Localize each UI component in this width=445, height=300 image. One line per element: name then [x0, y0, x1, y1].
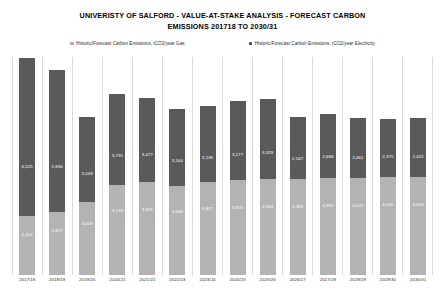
- bar-segment-gas[interactable]: 4,060: [380, 177, 396, 275]
- bar-segment-electricity[interactable]: 6,525: [19, 58, 35, 216]
- bar-segment-gas[interactable]: 4,025: [350, 178, 366, 275]
- bar-value-label-gas: 3,963: [290, 204, 306, 209]
- stacked-bar[interactable]: 3,3293,944: [260, 99, 276, 275]
- plot-area: 6,5252,4245,8362,6173,5093,0183,7353,719…: [12, 57, 433, 275]
- bar-slot: 3,3293,944: [253, 57, 283, 275]
- x-axis-tick-label: 2025/26: [253, 277, 283, 282]
- bar-segment-gas[interactable]: 2,617: [49, 212, 65, 275]
- stacked-bar[interactable]: 3,4773,821: [139, 98, 155, 275]
- bar-segment-electricity[interactable]: 3,139: [200, 106, 216, 182]
- bar-segment-electricity[interactable]: 3,277: [230, 101, 246, 180]
- bar-segment-gas[interactable]: 4,050: [410, 177, 426, 275]
- stacked-bar[interactable]: 2,4614,025: [350, 118, 366, 275]
- x-axis-tick-label: 2021/22: [132, 277, 162, 282]
- bar-slot: 6,5252,424: [12, 57, 42, 275]
- stacked-bar[interactable]: 5,8362,617: [49, 70, 65, 275]
- bar-value-label-gas: 3,018: [79, 221, 95, 226]
- chart-title-line-2: EMISSIONS 201718 TO 2030/31: [0, 22, 445, 33]
- x-axis-tick-label: 2029/30: [373, 277, 403, 282]
- bar-segment-electricity[interactable]: 2,375: [380, 119, 396, 177]
- bar-slot: 5,8362,617: [42, 57, 72, 275]
- bar-segment-electricity[interactable]: 2,422: [410, 118, 426, 177]
- bar-segment-electricity[interactable]: 3,329: [260, 99, 276, 180]
- bar-segment-electricity[interactable]: 2,668: [320, 114, 336, 179]
- bar-value-label-electricity: 2,668: [320, 154, 336, 159]
- bar-slot: 2,6683,992: [313, 57, 343, 275]
- bar-segment-electricity[interactable]: 3,509: [79, 117, 95, 202]
- bar-slot: 3,2773,905: [223, 57, 253, 275]
- bar-value-label-gas: 4,025: [350, 203, 366, 208]
- bar-value-label-electricity: 3,164: [169, 158, 185, 163]
- bar-value-label-electricity: 3,277: [230, 152, 246, 157]
- bar-segment-electricity[interactable]: 3,735: [109, 94, 125, 184]
- stacked-bar[interactable]: 3,2773,905: [230, 101, 246, 275]
- bar-value-label-gas: 2,617: [49, 228, 65, 233]
- legend-label-electricity: Historic/Forecast Carbon Emissions, tCO2…: [255, 41, 375, 46]
- x-axis-tick-label: 2028/29: [343, 277, 373, 282]
- legend-item-electricity[interactable]: Historic/Forecast Carbon Emissions, tCO2…: [249, 41, 375, 46]
- bar-segment-electricity[interactable]: 2,461: [350, 118, 366, 178]
- stacked-bar[interactable]: 3,7353,719: [109, 94, 125, 275]
- bar-segment-electricity[interactable]: 5,836: [49, 70, 65, 211]
- bar-segment-gas[interactable]: 3,992: [320, 178, 336, 275]
- chart-title-line-1: UNIVERISTY OF SALFORD - VALUE-AT-STAKE A…: [0, 11, 445, 22]
- legend-swatch-electricity-icon: [249, 42, 253, 46]
- chart-legend: Historic/Forecast Carbon Emissions, tCO2…: [0, 41, 445, 46]
- stacked-bar[interactable]: 2,6683,992: [320, 114, 336, 275]
- stacked-bar[interactable]: 2,5473,963: [290, 117, 306, 275]
- bar-value-label-electricity: 5,836: [49, 164, 65, 169]
- stacked-bar[interactable]: 3,1393,827: [200, 106, 216, 275]
- bar-group: 6,5252,4245,8362,6173,5093,0183,7353,719…: [12, 57, 433, 275]
- bar-value-label-electricity: 2,547: [290, 156, 306, 161]
- bar-slot: 3,1393,827: [192, 57, 222, 275]
- bar-value-label-electricity: 3,139: [200, 155, 216, 160]
- bar-segment-gas[interactable]: 3,018: [79, 202, 95, 275]
- bar-value-label-electricity: 3,735: [109, 153, 125, 158]
- stacked-bar[interactable]: 2,3754,060: [380, 119, 396, 275]
- x-axis-tick-label: 2017/18: [12, 277, 42, 282]
- bar-value-label-gas: 4,060: [380, 202, 396, 207]
- bar-segment-gas[interactable]: 3,719: [109, 185, 125, 275]
- legend-swatch-gas-icon: [70, 42, 74, 46]
- bar-segment-gas[interactable]: 3,686: [169, 186, 185, 275]
- x-axis-tick-label: 2018/19: [42, 277, 72, 282]
- bar-slot: 3,4773,821: [132, 57, 162, 275]
- bar-segment-gas[interactable]: 2,424: [19, 216, 35, 275]
- bar-value-label-electricity: 2,461: [350, 155, 366, 160]
- chart-title: UNIVERISTY OF SALFORD - VALUE-AT-STAKE A…: [0, 11, 445, 32]
- x-axis-tick-label: 2022/23: [162, 277, 192, 282]
- bar-value-label-gas: 3,905: [230, 205, 246, 210]
- bar-segment-gas[interactable]: 3,944: [260, 179, 276, 275]
- bar-segment-electricity[interactable]: 3,477: [139, 98, 155, 182]
- x-axis-tick-label: 2019/20: [72, 277, 102, 282]
- stacked-bar[interactable]: 3,1643,686: [169, 109, 185, 275]
- bar-value-label-gas: 3,821: [139, 207, 155, 212]
- bar-segment-gas[interactable]: 3,905: [230, 180, 246, 275]
- bar-value-label-gas: 3,719: [109, 208, 125, 213]
- bar-value-label-gas: 4,050: [410, 202, 426, 207]
- bar-value-label-gas: 3,944: [260, 204, 276, 209]
- bar-segment-gas[interactable]: 3,963: [290, 179, 306, 275]
- bar-segment-electricity[interactable]: 3,164: [169, 109, 185, 186]
- bar-value-label-electricity: 3,477: [139, 152, 155, 157]
- bar-segment-electricity[interactable]: 2,547: [290, 117, 306, 179]
- bar-slot: 2,4614,025: [343, 57, 373, 275]
- stacked-bar[interactable]: 2,4224,050: [410, 118, 426, 275]
- bar-slot: 2,3754,060: [373, 57, 403, 275]
- x-axis-tick-label: 2020/21: [102, 277, 132, 282]
- x-axis-tick-label: 2026/27: [283, 277, 313, 282]
- bar-value-label-gas: 3,686: [169, 209, 185, 214]
- legend-item-gas[interactable]: Historic/Forecast Carbon Emissions, tCO2…: [70, 41, 185, 46]
- legend-label-gas: Historic/Forecast Carbon Emissions, tCO2…: [76, 41, 185, 46]
- bar-value-label-electricity: 2,422: [410, 154, 426, 159]
- bar-segment-gas[interactable]: 3,821: [139, 182, 155, 275]
- bar-value-label-gas: 2,424: [19, 232, 35, 237]
- x-axis-tick-label: 2024/25: [223, 277, 253, 282]
- stacked-bar[interactable]: 3,5093,018: [79, 117, 95, 275]
- stacked-bar[interactable]: 6,5252,424: [19, 58, 35, 275]
- bar-value-label-gas: 3,827: [200, 206, 216, 211]
- x-axis-tick-label: 2030/31: [403, 277, 433, 282]
- x-axis-tick-label: 2027/28: [313, 277, 343, 282]
- bar-slot: 3,1643,686: [162, 57, 192, 275]
- bar-segment-gas[interactable]: 3,827: [200, 182, 216, 275]
